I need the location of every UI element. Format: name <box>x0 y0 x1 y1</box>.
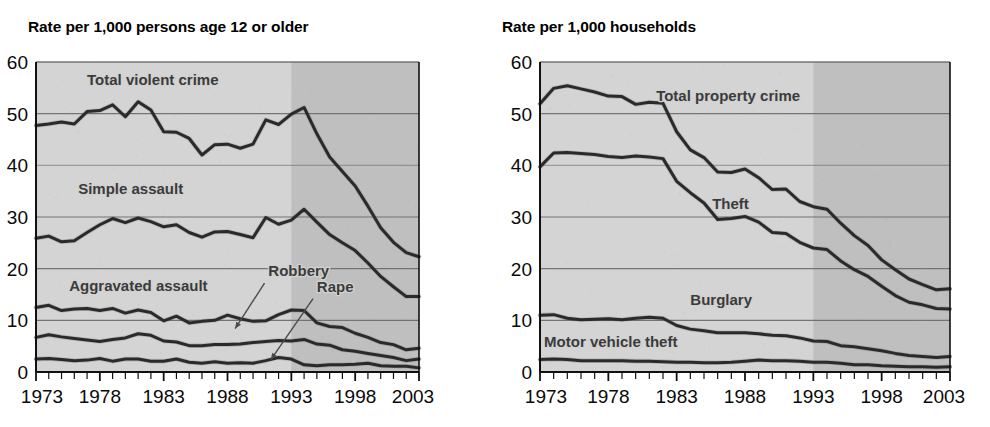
y-tick-30: 30 <box>511 207 532 228</box>
y-axis-tick-labels: 0102030405060 <box>511 52 532 383</box>
x-tick-1973: 1973 <box>21 386 63 407</box>
y-axis-tick-labels: 0102030405060 <box>7 52 28 383</box>
x-tick-1998: 1998 <box>334 386 376 407</box>
y-tick-40: 40 <box>511 155 532 176</box>
x-axis-tick-labels: 1973197819831988199319982003 <box>525 386 965 407</box>
series-label-aggravated_assault: Aggravated assault <box>69 277 207 294</box>
y-tick-10: 10 <box>511 310 532 331</box>
x-tick-1998: 1998 <box>861 386 903 407</box>
x-tick-1978: 1978 <box>587 386 629 407</box>
x-tick-1993: 1993 <box>270 386 312 407</box>
series-label-total_violent: Total violent crime <box>87 71 218 88</box>
y-tick-40: 40 <box>7 155 28 176</box>
y-tick-10: 10 <box>7 310 28 331</box>
figure-root: Rate per 1,000 persons age 12 or older 0… <box>0 0 990 427</box>
x-tick-1983: 1983 <box>143 386 185 407</box>
x-axis-tick-labels: 1973197819831988199319982003 <box>21 386 434 407</box>
series-label-total_property: Total property crime <box>656 87 800 104</box>
x-tick-1978: 1978 <box>79 386 121 407</box>
chart-title-property: Rate per 1,000 households <box>502 18 696 36</box>
y-tick-20: 20 <box>511 259 532 280</box>
y-tick-0: 0 <box>17 362 28 383</box>
series-label-theft: Theft <box>712 195 749 212</box>
y-tick-50: 50 <box>511 104 532 125</box>
series-label-burglary: Burglary <box>690 291 752 308</box>
x-tick-1988: 1988 <box>206 386 248 407</box>
y-tick-60: 60 <box>7 52 28 73</box>
plot-area-violent: 0102030405060197319781983198819931998200… <box>0 48 495 408</box>
x-tick-1988: 1988 <box>724 386 766 407</box>
y-tick-20: 20 <box>7 259 28 280</box>
x-tick-2003: 2003 <box>923 386 965 407</box>
x-tick-2003: 2003 <box>392 386 434 407</box>
x-tick-1993: 1993 <box>792 386 834 407</box>
y-tick-0: 0 <box>521 362 532 383</box>
plot-area-property: 0102030405060197319781983198819931998200… <box>480 48 990 408</box>
chart-panel-violent-crime: Rate per 1,000 persons age 12 or older 0… <box>0 0 495 427</box>
violent-crime-line-chart: 0102030405060197319781983198819931998200… <box>0 48 495 408</box>
chart-title-violent: Rate per 1,000 persons age 12 or older <box>28 18 309 36</box>
x-tick-1973: 1973 <box>525 386 567 407</box>
series-label-motor_vehicle_theft: Motor vehicle theft <box>544 333 677 350</box>
y-tick-60: 60 <box>511 52 532 73</box>
y-tick-30: 30 <box>7 207 28 228</box>
property-crime-line-chart: 0102030405060197319781983198819931998200… <box>480 48 990 408</box>
series-label-robbery: Robbery <box>268 262 330 279</box>
series-label-rape: Rape <box>317 278 354 295</box>
y-tick-50: 50 <box>7 104 28 125</box>
chart-panel-property-crime: Rate per 1,000 households 01020304050601… <box>480 0 990 427</box>
series-label-simple_assault: Simple assault <box>78 180 183 197</box>
x-tick-1983: 1983 <box>656 386 698 407</box>
